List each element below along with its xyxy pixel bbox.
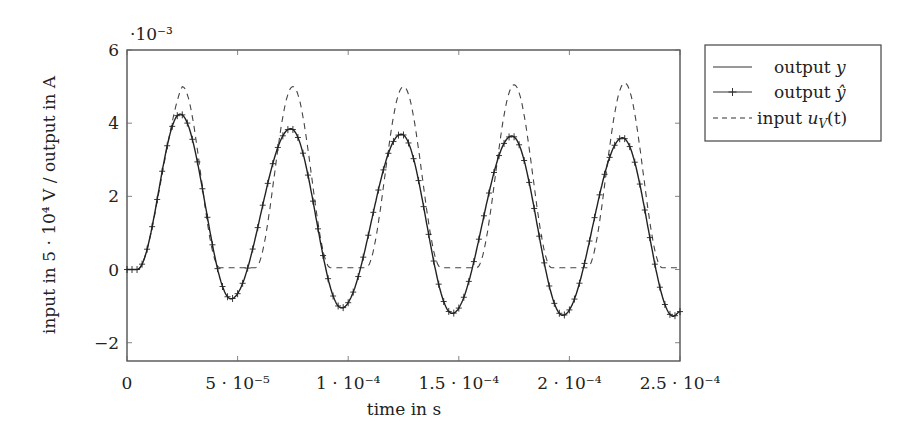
tick-labels: 05 · 10⁻⁵1 · 10⁻⁴1.5 · 10⁻⁴2 · 10⁻⁴2.5 ·… bbox=[94, 40, 721, 393]
y-axis-label: input in 5 · 10⁴ V / output in A bbox=[39, 75, 59, 334]
y-tick-label: 6 bbox=[108, 40, 119, 60]
y-tick-label: 2 bbox=[108, 186, 119, 206]
legend: output y output ŷ input uV(t) bbox=[705, 45, 881, 141]
input-u-curve bbox=[127, 83, 680, 270]
svg-text:input uV(t): input uV(t) bbox=[757, 108, 847, 131]
x-tick-label: 1 · 10⁻⁴ bbox=[316, 373, 381, 393]
y-tick-label: 0 bbox=[108, 260, 119, 280]
x-tick-label: 2 · 10⁻⁴ bbox=[537, 373, 602, 393]
output-yhat-markers bbox=[124, 111, 683, 319]
chart: 05 · 10⁻⁵1 · 10⁻⁴1.5 · 10⁻⁴2 · 10⁻⁴2.5 ·… bbox=[0, 0, 917, 436]
output-y-curve bbox=[127, 114, 680, 316]
y-tick-label: −2 bbox=[94, 333, 119, 353]
x-tick-label: 2.5 · 10⁻⁴ bbox=[640, 373, 721, 393]
x-tick-label: 5 · 10⁻⁵ bbox=[205, 373, 270, 393]
y-tick-label: 4 bbox=[108, 113, 119, 133]
plot-curves bbox=[124, 83, 683, 319]
y-scale-note: ·10⁻³ bbox=[130, 24, 173, 44]
x-tick-label: 0 bbox=[122, 373, 133, 393]
x-axis-label: time in s bbox=[367, 399, 441, 419]
x-tick-label: 1.5 · 10⁻⁴ bbox=[418, 373, 499, 393]
svg-text:output y: output y bbox=[774, 57, 846, 77]
svg-text:output ŷ: output ŷ bbox=[774, 82, 846, 102]
